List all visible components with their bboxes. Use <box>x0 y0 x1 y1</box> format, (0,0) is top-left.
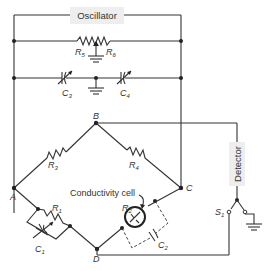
oscillator-label: Oscillator <box>77 10 117 21</box>
svg-text:R1: R1 <box>52 203 62 214</box>
svg-text:R6: R6 <box>106 47 117 58</box>
oscillator-box: Oscillator <box>70 7 124 24</box>
svg-text:R3: R3 <box>48 160 59 171</box>
svg-text:S1: S1 <box>215 207 224 218</box>
detector-label: Detector <box>232 146 243 182</box>
node-b-label: B <box>93 111 99 121</box>
bridge: B A C D R3 R4 R1 C1 R2 C2 Conductivity c… <box>9 111 193 264</box>
node-a-label: A <box>9 192 16 202</box>
svg-text:C1: C1 <box>35 244 45 255</box>
conductivity-cell-label: Conductivity cell <box>70 188 135 198</box>
svg-text:C2: C2 <box>158 240 169 251</box>
bridge-circuit-diagram: Oscillator R5 R6 C3 C4 <box>0 0 271 271</box>
r5-r6-potentiometer: R5 R6 <box>12 37 183 62</box>
svg-text:C4: C4 <box>120 88 131 99</box>
node-c-label: C <box>186 183 193 193</box>
svg-text:R4: R4 <box>129 160 140 171</box>
svg-text:C3: C3 <box>62 88 73 99</box>
c3-c4-capacitors: C3 C4 <box>12 71 183 99</box>
svg-text:R5: R5 <box>75 47 86 58</box>
svg-text:R2: R2 <box>122 203 133 214</box>
